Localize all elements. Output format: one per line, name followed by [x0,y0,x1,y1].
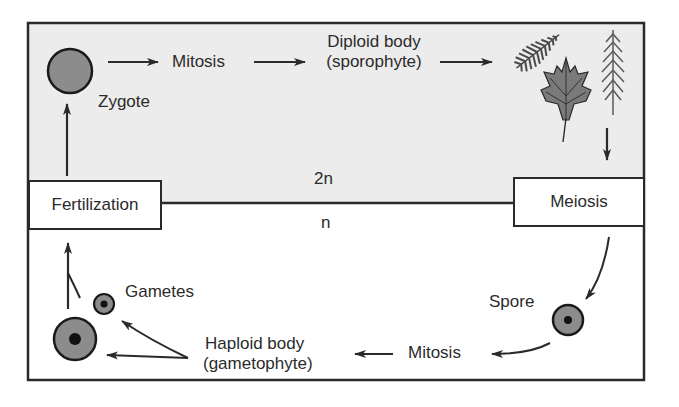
life-cycle-diagram: Fertilization Meiosis Zygote Mitosis Dip… [0,0,679,407]
zygote-cell-icon [48,49,92,93]
large-gamete-cell-icon [54,318,96,360]
spore-cell-icon [553,305,583,335]
diploid-body-label-line2: (sporophyte) [314,52,434,72]
diploid-region-label: 2n [314,169,333,189]
meiosis-box: Meiosis [513,177,645,227]
mitosis-top-label: Mitosis [172,52,225,72]
mitosis-bottom-label: Mitosis [408,343,461,363]
gametes-label: Gametes [125,282,194,302]
haploid-body-label-line2: (gametophyte) [203,354,313,374]
fertilization-box: Fertilization [28,180,162,230]
spore-label: Spore [489,292,534,312]
meiosis-label: Meiosis [550,192,608,212]
zygote-label: Zygote [98,92,150,112]
haploid-region-label: n [321,213,330,233]
small-gamete-cell-icon [94,294,114,314]
fertilization-label: Fertilization [52,195,139,215]
diploid-body-label-line1: Diploid body [314,32,434,52]
haploid-body-label-line1: Haploid body [205,334,304,354]
